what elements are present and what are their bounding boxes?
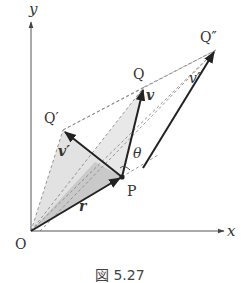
vector-label-v: v	[146, 87, 155, 103]
y-axis-label: y	[28, 0, 38, 18]
origin-label: O	[15, 236, 26, 252]
point-label-P: P	[127, 183, 136, 199]
x-axis-label: x	[227, 222, 236, 240]
vector-diagram: y x O P Q Q′ Q″ r v v′ v″ θ 図 5.27	[0, 0, 241, 283]
point-label-Q: Q	[133, 66, 144, 82]
point-P	[119, 174, 124, 179]
vector-label-v-prime: v′	[58, 143, 70, 159]
vector-label-r: r	[79, 198, 88, 214]
point-label-Q-prime: Q′	[44, 110, 59, 126]
figure-caption: 図 5.27	[95, 267, 145, 283]
point-label-Q-double-prime: Q″	[200, 29, 217, 45]
angle-label-theta: θ	[133, 145, 142, 161]
vector-label-v-double-prime: v″	[189, 70, 203, 86]
